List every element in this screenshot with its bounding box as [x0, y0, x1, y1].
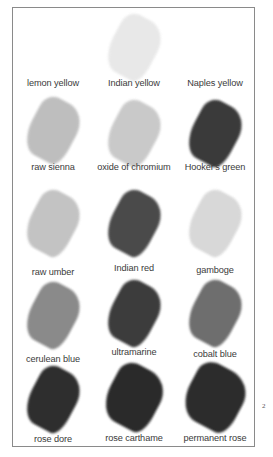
- paint-swatch: [18, 185, 88, 261]
- swatch-label: Indian yellow: [94, 78, 174, 88]
- paint-swatch: [180, 185, 250, 261]
- swatch-cell: cerulean blue: [13, 280, 93, 368]
- paint-swatch: [180, 275, 250, 351]
- paint-swatch: [99, 9, 169, 85]
- swatch-label: Indian red: [94, 263, 174, 273]
- swatch-label: raw sienna: [13, 162, 93, 172]
- swatch-cell: raw sienna: [13, 96, 93, 184]
- page-number: 2: [262, 402, 266, 410]
- swatch-cell: Hooker's green: [175, 96, 255, 184]
- swatch-label: cobalt blue: [175, 349, 255, 359]
- swatch-label: Naples yellow: [175, 78, 255, 88]
- swatch-cell: permanent rose: [175, 364, 255, 452]
- swatch-cell: lemon yellow: [13, 8, 93, 96]
- swatch-cell: Naples yellow: [175, 8, 255, 96]
- swatch-cell: raw umber: [13, 184, 93, 272]
- swatch-cell: ultramarine: [94, 280, 174, 368]
- paint-swatch: [99, 185, 169, 261]
- swatch-label: oxide of chromium: [94, 162, 174, 172]
- swatch-label: cerulean blue: [13, 354, 93, 364]
- swatch-cell: Indian yellow: [94, 8, 174, 96]
- swatch-cell: cobalt blue: [175, 280, 255, 368]
- swatch-cell: gamboge: [175, 184, 255, 272]
- paint-swatch: [96, 357, 171, 436]
- paint-swatch: [99, 275, 169, 351]
- swatch-cell: oxide of chromium: [94, 96, 174, 184]
- paint-swatch: [176, 356, 255, 437]
- swatch-label: Hooker's green: [175, 162, 255, 172]
- swatch-chart-frame: lemon yellow Indian yellow Naples yellow…: [12, 7, 255, 447]
- swatch-label: permanent rose: [175, 433, 255, 443]
- swatch-cell: rose carthame: [94, 364, 174, 452]
- swatch-label: raw umber: [13, 267, 93, 277]
- swatch-label: lemon yellow: [13, 78, 93, 88]
- paint-swatch: [18, 277, 88, 353]
- swatch-label: ultramarine: [94, 347, 174, 357]
- swatch-label: gamboge: [175, 265, 255, 275]
- paint-swatch: [18, 92, 88, 168]
- swatch-cell: Indian red: [94, 184, 174, 272]
- swatch-label: rose dore: [13, 434, 93, 444]
- paint-swatch: [180, 95, 250, 171]
- paint-swatch: [18, 361, 88, 437]
- paint-swatch: [99, 95, 169, 171]
- swatch-label: rose carthame: [94, 433, 174, 443]
- swatch-cell: rose dore: [13, 364, 93, 452]
